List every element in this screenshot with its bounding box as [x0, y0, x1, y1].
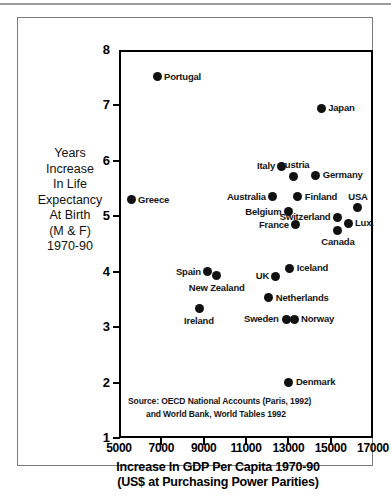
y-axis-label-line: In Life: [24, 177, 116, 193]
y-axis-label-line: Expectancy: [24, 193, 116, 209]
data-point-label: Lux.: [355, 218, 374, 228]
source-note-line-1: Source: OECD National Accounts (Paris, 1…: [128, 395, 311, 408]
data-point-label: Germany: [323, 170, 363, 180]
x-tick-mark: [245, 438, 247, 445]
x-axis-label-line-1: Increase In GDP Per Capita 1970-90: [78, 460, 358, 475]
data-point: [127, 195, 136, 204]
y-tick-label: 6: [18, 154, 119, 167]
source-note-line-2: and World Bank, World Tables 1992: [128, 408, 311, 421]
x-axis-label: Increase In GDP Per Capita 1970-90 (US$ …: [78, 460, 358, 490]
data-point-label: Canada: [321, 237, 354, 247]
data-point: [153, 72, 162, 81]
y-tick-label: 8: [18, 43, 119, 56]
data-point-label: Austria: [278, 160, 309, 170]
data-point: [290, 315, 299, 324]
data-point: [317, 104, 326, 113]
figure-frame: Years Increase In Life Expectancy At Bir…: [17, 17, 373, 466]
x-tick-mark: [330, 438, 332, 445]
data-point-label: Iceland: [297, 263, 328, 273]
source-note: Source: OECD National Accounts (Paris, 1…: [128, 395, 311, 421]
data-point-label: Sweden: [244, 314, 279, 324]
data-point: [284, 378, 293, 387]
data-point-label: Denmark: [296, 377, 335, 387]
y-tick-label: 3: [18, 320, 119, 333]
data-point: [195, 304, 204, 313]
data-point-label: Italy: [257, 161, 275, 171]
data-point-label: Spain: [176, 267, 201, 277]
data-point-label: Australia: [227, 192, 266, 202]
x-tick-mark: [203, 438, 205, 445]
data-point-label: Finland: [305, 192, 337, 202]
y-tick-label: 2: [18, 376, 119, 389]
data-point-label: Norway: [301, 314, 334, 324]
x-tick-mark: [287, 438, 289, 445]
data-point: [271, 272, 280, 281]
data-point-label: Belgium: [245, 207, 281, 217]
data-point-label: USA: [348, 192, 367, 202]
data-point-label: New Zealand: [189, 283, 245, 293]
page-top-rule: [0, 3, 391, 5]
data-point: [289, 172, 298, 181]
data-point-label: Portugal: [164, 72, 201, 82]
data-point-label: Greece: [138, 195, 169, 205]
y-tick-label: 4: [18, 265, 119, 278]
y-axis-label-line: (M & F): [24, 224, 116, 240]
x-axis-label-line-2: (US$ at Purchasing Power Parities): [78, 475, 358, 490]
data-point-label: France: [259, 220, 289, 230]
x-tick-mark: [160, 438, 162, 445]
data-point-label: Japan: [328, 103, 354, 113]
data-point-label: Ireland: [184, 316, 214, 326]
y-tick-label: 7: [18, 98, 119, 111]
data-point-label: Netherlands: [276, 293, 329, 303]
data-point: [333, 226, 342, 235]
y-axis-label-line: 1970-90: [24, 239, 116, 255]
x-tick-label: 17000: [348, 442, 391, 455]
y-tick-label: 5: [18, 209, 119, 222]
data-point: [344, 219, 353, 228]
data-point-label: UK: [256, 271, 269, 281]
